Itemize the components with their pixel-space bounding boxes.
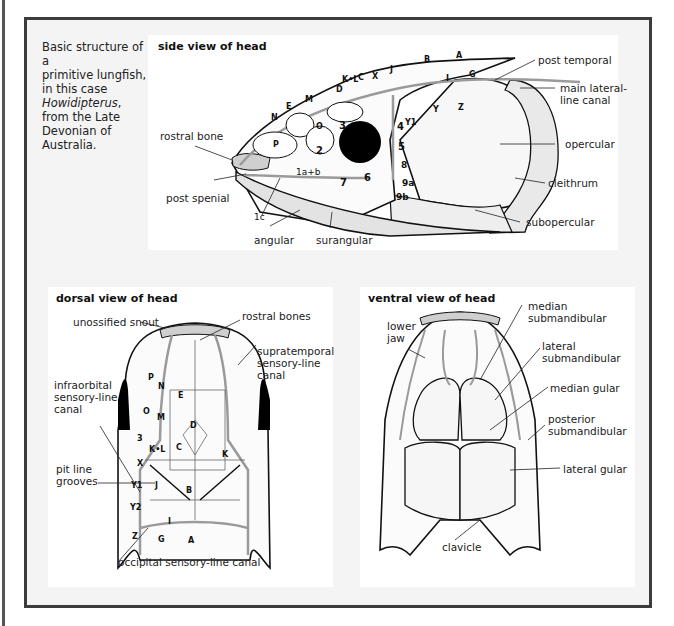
label-line: lower <box>387 320 416 332</box>
label-line: submandibular <box>542 352 621 364</box>
label-clavicle: clavicle <box>442 541 481 553</box>
label-lateral-submandibular: lateral submandibular <box>542 340 621 364</box>
label-line: lateral <box>542 340 621 352</box>
label-lower-jaw: lower jaw <box>387 320 416 344</box>
label-median-submandibular: median submandibular <box>528 300 607 324</box>
label-lateral-gular: lateral gular <box>563 463 627 475</box>
label-line: median <box>528 300 607 312</box>
label-line: submandibular <box>548 425 627 437</box>
label-line: submandibular <box>528 312 607 324</box>
label-median-gular: median gular <box>550 382 620 394</box>
label-posterior-submandibular: posterior submandibular <box>548 413 627 437</box>
label-line: jaw <box>387 332 416 344</box>
label-line: posterior <box>548 413 627 425</box>
